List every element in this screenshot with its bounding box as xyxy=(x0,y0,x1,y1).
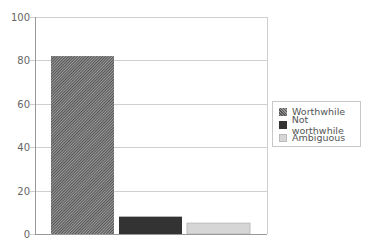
legend-swatch-not-worthwhile xyxy=(279,121,287,129)
y-tick-label-0: 0 xyxy=(24,229,30,240)
bars xyxy=(51,56,250,234)
legend-item-not-worthwhile: Not worthwhile xyxy=(279,118,360,131)
y-tick-label-20: 20 xyxy=(17,186,30,197)
legend-swatch-worthwhile xyxy=(279,108,287,116)
bar-worthwhile xyxy=(51,56,114,234)
bar-not-worthwhile xyxy=(119,217,182,234)
y-tick-label-40: 40 xyxy=(17,142,30,153)
legend: Worthwhile Not worthwhile Ambiguous xyxy=(272,101,361,147)
y-tick-label-100: 100 xyxy=(11,12,30,23)
legend-label: Ambiguous xyxy=(292,132,345,143)
bar-ambiguous xyxy=(187,223,250,234)
y-axis-ticks: 020406080100 xyxy=(11,12,30,240)
y-tick-label-80: 80 xyxy=(17,55,30,66)
legend-swatch-ambiguous xyxy=(279,134,287,142)
y-tick-label-60: 60 xyxy=(17,99,30,110)
